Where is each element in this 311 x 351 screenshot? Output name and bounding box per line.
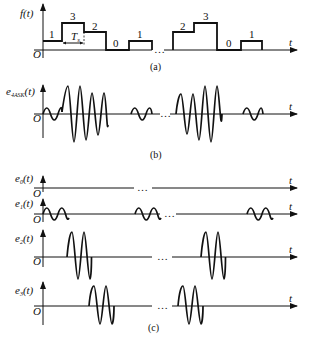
e3-burst (89, 286, 114, 324)
level-label: 3 (70, 10, 76, 22)
level-label: 1 (249, 28, 255, 40)
level-label: 1 (137, 28, 143, 40)
y-label-e1: e1(t) (15, 197, 34, 210)
row-e3: e3(t) O t … (15, 282, 297, 325)
level-label: 3 (203, 10, 209, 22)
x-label-e1: t (289, 200, 293, 212)
ask-burst-level-2 (86, 93, 108, 140)
origin-label-a: O (33, 48, 41, 60)
ellipsis-e1: … (164, 207, 175, 219)
row-e1: e1(t) O t … (15, 197, 297, 225)
origin-label-e2: O (33, 255, 41, 267)
y-label-b: e4ASK(t) (6, 85, 35, 98)
ellipsis-b: … (160, 107, 171, 119)
origin-label-e0: O (33, 187, 41, 199)
level-label: 0 (113, 37, 119, 49)
level-label: 2 (180, 20, 186, 32)
4ask-diagram: f(t) O t 1 3 2 0 1 Ts … 2 3 0 1 (a) e4AS… (0, 0, 311, 351)
caption-b: (b) (150, 149, 162, 161)
panel-a: f(t) O t 1 3 2 0 1 Ts … 2 3 0 1 (a) (20, 4, 297, 73)
level-label: 0 (226, 37, 232, 49)
x-label-e2: t (289, 243, 293, 255)
staircase-signal-left (43, 23, 152, 50)
y-label-e0: e0(t) (15, 172, 34, 185)
level-label: 1 (49, 28, 55, 40)
ellipsis-e3: … (157, 299, 168, 311)
caption-c: (c) (148, 322, 159, 334)
y-label-e2: e2(t) (15, 232, 34, 245)
x-label-e0: t (289, 174, 293, 186)
x-label-e3: t (289, 292, 293, 304)
x-label-b: t (289, 100, 293, 112)
origin-label-e1: O (33, 213, 41, 225)
x-label-a: t (289, 36, 293, 48)
ellipsis-e0: … (137, 181, 148, 193)
ellipsis-a: … (154, 43, 165, 55)
e3-burst (178, 286, 203, 324)
row-e2: e2(t) O t … (15, 230, 297, 279)
ellipsis-e2: … (157, 250, 168, 262)
e2-burst (67, 232, 92, 279)
y-label-e3: e3(t) (15, 284, 34, 297)
level-label: 2 (92, 20, 98, 32)
panel-c: e0(t) O t … e1(t) O t … e2(t) O t … (15, 172, 297, 334)
row-e0: e0(t) O t … (15, 172, 297, 199)
y-label-a: f(t) (20, 7, 34, 20)
caption-a: (a) (150, 61, 161, 73)
panel-b: e4ASK(t) O t … (b) (6, 85, 297, 161)
e2-burst (201, 232, 226, 279)
origin-label-e3: O (33, 305, 41, 317)
ts-label: Ts (71, 30, 80, 44)
origin-label-b: O (33, 112, 41, 124)
